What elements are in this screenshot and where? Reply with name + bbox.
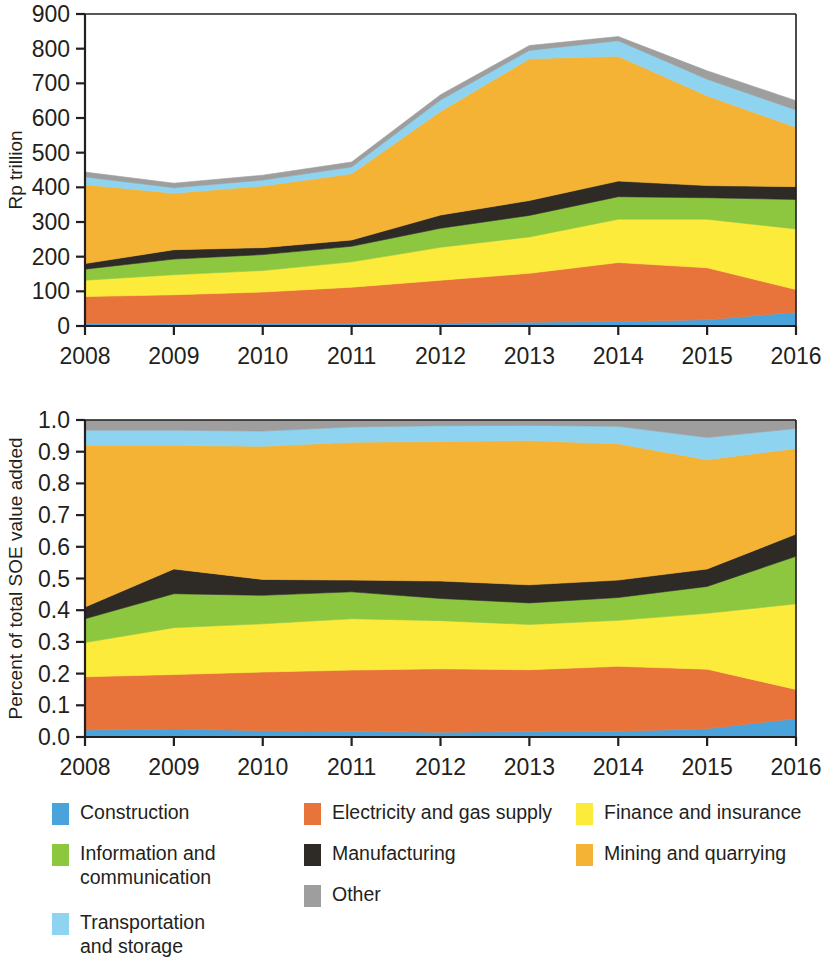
y-axis-title: Percent of total SOE value added — [5, 437, 26, 719]
legend-swatch-construction — [52, 803, 69, 825]
legend-swatch-finance-and-insurance — [576, 803, 593, 825]
legend-item-label: Transportation and storage — [80, 910, 205, 958]
x-tick-label: 2011 — [327, 754, 376, 780]
y-tick-label: 0 — [57, 313, 70, 339]
legend-item[interactable]: Manufacturing — [304, 841, 556, 869]
legend-swatch-electricity-and-gas-supply — [304, 803, 321, 825]
legend: ConstructionInformation and communicatio… — [52, 800, 828, 938]
y-tick-label: 0.8 — [38, 470, 70, 496]
legend-swatch-manufacturing — [304, 844, 321, 866]
legend-item-label: Manufacturing — [332, 841, 456, 865]
x-tick-label: 2012 — [415, 343, 466, 369]
x-tick-label: 2015 — [682, 754, 733, 780]
chart-bottom-percent-of-total: 0.00.10.20.30.40.50.60.70.80.91.02008200… — [0, 395, 828, 805]
y-tick-label: 0.6 — [38, 534, 70, 560]
legend-item[interactable]: Transportation and storage — [52, 910, 304, 961]
y-tick-label: 400 — [32, 174, 70, 200]
x-tick-label: 2008 — [59, 343, 110, 369]
x-tick-label: 2016 — [770, 343, 821, 369]
x-tick-label: 2009 — [148, 754, 199, 780]
legend-item-label: Information and communication — [80, 841, 216, 889]
y-tick-label: 700 — [32, 70, 70, 96]
legend-item-label: Other — [332, 882, 381, 906]
x-tick-label: 2014 — [593, 343, 644, 369]
y-tick-label: 0.4 — [38, 597, 70, 623]
y-tick-label: 0.2 — [38, 661, 70, 687]
legend-item-label: Mining and quarrying — [604, 841, 786, 865]
y-tick-label: 500 — [32, 140, 70, 166]
y-tick-label: 0.3 — [38, 629, 70, 655]
legend-swatch-other — [304, 885, 321, 907]
y-axis-title: Rp trillion — [5, 130, 26, 209]
x-tick-label: 2014 — [593, 754, 644, 780]
x-tick-label: 2010 — [237, 343, 288, 369]
x-tick-label: 2010 — [237, 754, 288, 780]
legend-swatch-information-and-communication — [52, 844, 69, 866]
y-tick-label: 900 — [32, 1, 70, 27]
legend-item-label: Construction — [80, 800, 189, 824]
x-tick-label: 2012 — [415, 754, 466, 780]
y-tick-label: 300 — [32, 209, 70, 235]
y-tick-label: 100 — [32, 278, 70, 304]
x-tick-label: 2011 — [327, 343, 376, 369]
legend-item-label: Electricity and gas supply — [332, 800, 552, 824]
area-electricity-and-gas-supply — [85, 666, 796, 732]
x-tick-label: 2013 — [504, 343, 555, 369]
legend-item[interactable]: Electricity and gas supply — [304, 800, 556, 828]
x-tick-label: 2016 — [770, 754, 821, 780]
legend-swatch-mining-and-quarrying — [576, 844, 593, 866]
y-tick-label: 0.9 — [38, 439, 70, 465]
legend-item[interactable]: Finance and insurance — [576, 800, 828, 828]
legend-swatch-transportation-and-storage — [52, 913, 69, 935]
x-tick-label: 2008 — [59, 754, 110, 780]
legend-item[interactable]: Other — [304, 882, 556, 910]
legend-item[interactable]: Mining and quarrying — [576, 841, 828, 869]
y-tick-label: 200 — [32, 244, 70, 270]
legend-item[interactable]: Construction — [52, 800, 304, 828]
y-tick-label: 800 — [32, 36, 70, 62]
x-tick-label: 2009 — [148, 343, 199, 369]
y-tick-label: 0.5 — [38, 566, 70, 592]
y-tick-label: 600 — [32, 105, 70, 131]
legend-item[interactable]: Information and communication — [52, 841, 304, 897]
legend-column-3: Finance and insuranceMining and quarryin… — [576, 800, 828, 882]
legend-column-1: ConstructionInformation and communicatio… — [52, 800, 304, 961]
legend-column-2: Electricity and gas supplyManufacturingO… — [304, 800, 556, 923]
x-tick-label: 2015 — [682, 343, 733, 369]
chart-top-rp-trillion: 0100200300400500600700800900200820092010… — [0, 0, 828, 395]
y-tick-label: 0.7 — [38, 502, 70, 528]
legend-item-label: Finance and insurance — [604, 800, 801, 824]
y-tick-label: 0.0 — [38, 724, 70, 750]
y-tick-label: 1.0 — [38, 407, 70, 433]
x-tick-label: 2013 — [504, 754, 555, 780]
y-tick-label: 0.1 — [38, 692, 70, 718]
